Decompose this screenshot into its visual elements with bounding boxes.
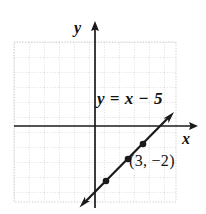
coordinate-graph-figure: y x y = x − 5 (3, −2) <box>0 0 206 214</box>
y-axis-label: y <box>74 20 81 36</box>
point-marker <box>103 178 110 185</box>
equation-label: y = x − 5 <box>97 90 163 107</box>
point-coordinate-label: (3, −2) <box>129 153 175 169</box>
point-marker-3-neg2 <box>140 141 147 148</box>
x-axis-label: x <box>182 131 190 147</box>
